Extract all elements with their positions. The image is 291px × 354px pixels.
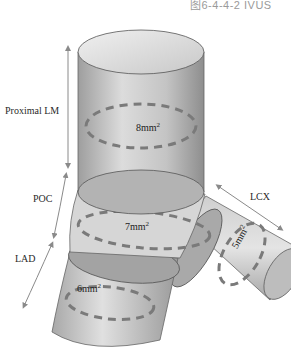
- lcx-label: LCX: [250, 191, 270, 202]
- proximal-lm-area: 8mm2: [136, 121, 160, 133]
- bifurcation-diagram: [0, 0, 291, 354]
- proximal-lm-label: Proximal LM: [5, 105, 59, 116]
- lad-area: 6mm2: [77, 282, 101, 294]
- poc-label: POC: [33, 193, 52, 204]
- poc-area: 7mm2: [125, 220, 149, 232]
- lad-label: LAD: [15, 253, 36, 264]
- poc-arrow: [54, 175, 66, 236]
